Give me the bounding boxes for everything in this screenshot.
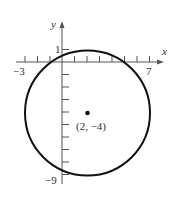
x-axis-arrow-icon bbox=[157, 60, 164, 65]
y-axis-label: y bbox=[50, 18, 56, 30]
y-tick-label-min: −9 bbox=[45, 174, 57, 186]
center-label: (2, −4) bbox=[76, 120, 106, 133]
x-tick-label-min: −3 bbox=[13, 65, 25, 77]
y-ticks bbox=[62, 50, 69, 175]
coordinate-plane: y x −3 7 1 −9 (2, −4) bbox=[0, 0, 174, 214]
y-axis-arrow-icon bbox=[60, 21, 65, 28]
x-axis-label: x bbox=[161, 45, 167, 57]
x-ticks bbox=[25, 56, 150, 62]
center-point bbox=[85, 111, 90, 116]
x-tick-label-max: 7 bbox=[146, 65, 152, 77]
y-tick-label-max: 1 bbox=[55, 43, 61, 55]
